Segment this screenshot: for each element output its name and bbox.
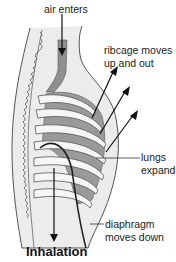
label-diaphragm-line1: diaphragm <box>105 218 155 230</box>
label-lungs-line2: expand <box>141 164 175 176</box>
inhalation-diagram: air enters ribcage moves up and out lung… <box>0 0 176 262</box>
label-air-enters: air enters <box>44 3 88 15</box>
label-diaphragm-line2: moves down <box>105 231 164 243</box>
diagram-title: Inhalation <box>26 244 87 259</box>
label-ribcage-line1: ribcage moves <box>104 44 172 56</box>
label-ribcage-line2: up and out <box>104 57 154 69</box>
label-lungs-line1: lungs <box>141 151 166 163</box>
